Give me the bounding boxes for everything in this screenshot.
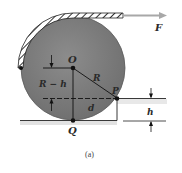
rope-end-point xyxy=(19,66,23,70)
distance-d-label: d xyxy=(88,103,95,113)
step-shadow xyxy=(117,99,167,104)
force-arrow-head xyxy=(159,12,167,19)
contact-label-p: P xyxy=(111,86,119,96)
contact-point-p xyxy=(115,96,120,101)
h-bottom-arrow-head xyxy=(149,121,153,126)
bottom-label-q: Q xyxy=(68,125,77,136)
h-top-arrow-head xyxy=(149,94,153,99)
bottom-point-q xyxy=(71,118,76,123)
radius-label: R xyxy=(92,73,101,83)
h-label: h xyxy=(147,107,154,117)
wheel-step-diagram: F R − h h O P Q R d (a) xyxy=(0,0,182,173)
force-label: F xyxy=(154,22,163,33)
r-minus-h-label: R − h xyxy=(38,79,67,89)
figure-caption: (a) xyxy=(85,150,94,159)
center-label-o: O xyxy=(68,54,77,65)
center-point-o xyxy=(71,66,76,71)
